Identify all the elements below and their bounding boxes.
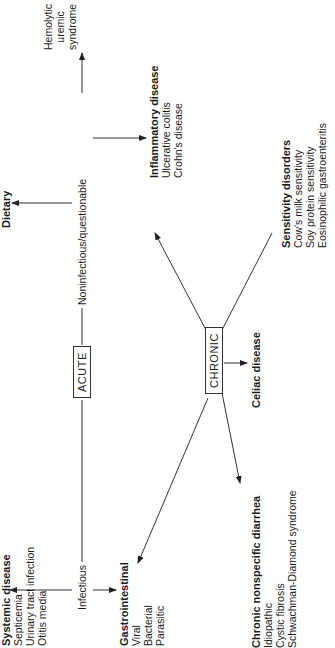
diagram-canvas: ACUTE CHRONIC Infectious Noninfectious/q… (0, 0, 335, 648)
gastrointestinal-item: Parasitic (154, 562, 166, 646)
systemic-disease-node: Systemic disease Septicemia Urinary trac… (0, 547, 48, 646)
hus-line: Hemolytic (42, 4, 54, 50)
hus-line: uremic (54, 4, 66, 50)
inflammatory-item: Crohn's disease (172, 66, 184, 179)
sensitivity-title: Sensitivity disorders (280, 123, 292, 248)
nonspecific-item: Schwachman-Diamond syndrome (286, 490, 298, 648)
nonspecific-item: Cystic fibrosis (274, 490, 286, 648)
chronic-box: CHRONIC (205, 327, 223, 394)
inflammatory-item: Ulcerative colitis (160, 66, 172, 179)
gastrointestinal-item: Bacterial (142, 562, 154, 646)
inflammatory-title: Inflammatory disease (148, 66, 160, 179)
systemic-item: Septicemia (12, 547, 24, 646)
noninfectious-label: Noninfectious/questionable (76, 176, 88, 308)
systemic-title: Systemic disease (0, 547, 12, 646)
gastrointestinal-node: Gastrointestinal Viral Bacterial Parasit… (118, 562, 166, 646)
systemic-item: Otitis media (36, 547, 48, 646)
gastrointestinal-title: Gastrointestinal (118, 562, 130, 646)
sensitivity-item: Eosinophilic gastroenteritis (316, 123, 328, 248)
celiac-title: Celiac disease (250, 332, 262, 408)
systemic-item: Urinary tract infection (24, 547, 36, 646)
nonspecific-title: Chronic nonspecific diarrhea (250, 490, 262, 648)
nonspecific-item: Idiopathic (262, 490, 274, 648)
inflammatory-disease-node: Inflammatory disease Ulcerative colitis … (148, 66, 184, 179)
hus-node: Hemolytic uremic syndrome (42, 4, 78, 50)
gastrointestinal-item: Viral (130, 562, 142, 646)
hus-line: syndrome (66, 4, 78, 50)
infectious-label: Infectious (76, 562, 88, 613)
dietary-title: Dietary (0, 191, 12, 228)
sensitivity-item: Soy protein sensitivity (304, 123, 316, 248)
sensitivity-item: Cow's milk sensitivity (292, 123, 304, 248)
dietary-node: Dietary (0, 191, 12, 228)
acute-box: ACUTE (73, 346, 91, 398)
chronic-nonspecific-node: Chronic nonspecific diarrhea Idiopathic … (250, 490, 298, 648)
celiac-disease-node: Celiac disease (250, 332, 262, 408)
sensitivity-disorders-node: Sensitivity disorders Cow's milk sensiti… (280, 123, 328, 248)
